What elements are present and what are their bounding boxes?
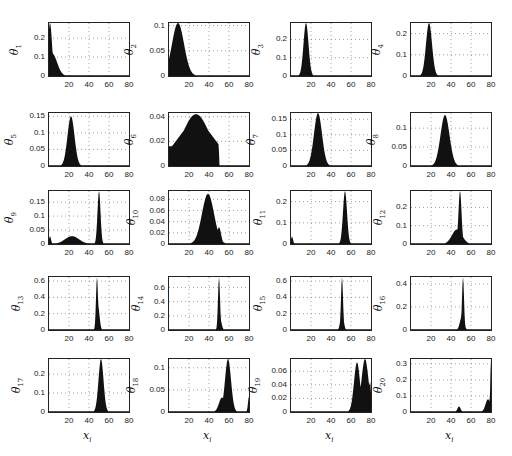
- x-tick-label: 20: [179, 249, 199, 257]
- x-tick-label: 60: [99, 417, 119, 425]
- y-tick-label: 0: [379, 162, 407, 170]
- y-axis-label: θ12: [372, 209, 387, 225]
- x-axis-label: xi: [325, 429, 333, 444]
- x-tick-label: 80: [481, 81, 501, 89]
- plot-area: [290, 276, 372, 331]
- histogram-bars: [49, 23, 129, 76]
- y-axis-label: θ15: [252, 295, 267, 311]
- x-tick-label: 20: [59, 81, 79, 89]
- x-tick-label: 80: [361, 335, 381, 343]
- histogram-bars: [291, 191, 371, 244]
- y-axis-label: θ14: [130, 295, 145, 311]
- x-tick-label: 40: [321, 171, 341, 179]
- x-tick-label: 20: [301, 81, 321, 89]
- y-tick-label: 0.15: [17, 112, 45, 120]
- y-tick-label: 0: [379, 326, 407, 334]
- x-tick-label: 40: [441, 249, 461, 257]
- y-tick-label: 0.02: [137, 137, 165, 145]
- y-tick-label: 0.06: [137, 207, 165, 215]
- plot-area: [48, 112, 130, 167]
- x-tick-label: 60: [461, 417, 481, 425]
- y-tick-label: 0.2: [379, 30, 407, 38]
- histogram-bars: [291, 359, 371, 412]
- x-tick-label: 40: [199, 171, 219, 179]
- x-tick-label: 60: [99, 171, 119, 179]
- x-tick-label: 40: [321, 335, 341, 343]
- x-tick-label: 80: [481, 171, 501, 179]
- x-tick-label: 60: [219, 335, 239, 343]
- y-axis-label: θ11: [252, 209, 267, 225]
- y-tick-label: 0.1: [379, 124, 407, 132]
- y-tick-label: 0.04: [259, 381, 287, 389]
- y-axis-label: θ6: [123, 134, 138, 145]
- x-tick-label: 60: [219, 417, 239, 425]
- x-tick-label: 60: [461, 81, 481, 89]
- plot-area: [410, 276, 492, 331]
- y-axis-label: θ16: [372, 295, 387, 311]
- histogram-bars: [49, 277, 129, 330]
- x-tick-label: 80: [239, 249, 259, 257]
- x-tick-label: 20: [421, 81, 441, 89]
- y-tick-label: 0.3: [379, 360, 407, 368]
- x-tick-label: 20: [59, 249, 79, 257]
- x-tick-label: 20: [421, 249, 441, 257]
- x-tick-label: 40: [441, 81, 461, 89]
- y-axis-label: θ4: [370, 44, 385, 55]
- y-tick-label: 0.08: [137, 195, 165, 203]
- y-tick-label: 0: [137, 240, 165, 248]
- x-tick-label: 20: [59, 335, 79, 343]
- x-tick-label: 80: [239, 335, 259, 343]
- y-axis-label: θ18: [125, 377, 140, 393]
- y-axis-label: θ8: [365, 134, 380, 145]
- y-tick-label: 0: [379, 72, 407, 80]
- x-tick-label: 40: [199, 249, 219, 257]
- y-tick-label: 0: [259, 72, 287, 80]
- y-tick-label: 0.2: [137, 312, 165, 320]
- x-tick-label: 40: [199, 81, 219, 89]
- y-tick-label: 0.05: [379, 143, 407, 151]
- x-tick-label: 40: [441, 417, 461, 425]
- x-tick-label: 40: [79, 335, 99, 343]
- x-tick-label: 80: [239, 417, 259, 425]
- x-tick-label: 80: [119, 81, 139, 89]
- x-tick-label: 60: [341, 171, 361, 179]
- y-axis-label: θ1: [8, 44, 23, 55]
- histogram-bars: [411, 23, 491, 76]
- plot-area: [48, 22, 130, 77]
- y-tick-label: 0.05: [137, 386, 165, 394]
- y-tick-label: 0.2: [259, 198, 287, 206]
- y-tick-label: 0: [137, 72, 165, 80]
- y-tick-label: 0.1: [259, 131, 287, 139]
- x-tick-label: 40: [79, 171, 99, 179]
- plot-area: [48, 276, 130, 331]
- x-tick-label: 20: [59, 417, 79, 425]
- plot-area: [48, 190, 130, 245]
- x-tick-label: 20: [59, 171, 79, 179]
- histogram-bars: [291, 113, 371, 166]
- x-tick-label: 80: [119, 171, 139, 179]
- y-tick-label: 0.05: [17, 145, 45, 153]
- y-tick-label: 0.1: [17, 212, 45, 220]
- x-tick-label: 60: [99, 81, 119, 89]
- y-tick-label: 0: [17, 162, 45, 170]
- y-tick-label: 0: [17, 240, 45, 248]
- y-tick-label: 0.06: [259, 367, 287, 375]
- y-tick-label: 0.1: [17, 129, 45, 137]
- histogram-bars: [49, 359, 129, 412]
- y-axis-label: θ9: [3, 212, 18, 223]
- y-tick-label: 0: [259, 408, 287, 416]
- x-tick-label: 20: [301, 417, 321, 425]
- plot-area: [168, 190, 250, 245]
- plot-area: [168, 112, 250, 167]
- histogram-bars: [411, 359, 491, 412]
- x-tick-label: 60: [99, 335, 119, 343]
- y-axis-label: θ13: [10, 295, 25, 311]
- y-tick-label: 0.1: [137, 364, 165, 372]
- x-tick-label: 20: [421, 335, 441, 343]
- y-tick-label: 0: [17, 326, 45, 334]
- x-axis-label: xi: [83, 429, 91, 444]
- histogram-bars: [291, 277, 371, 330]
- x-tick-label: 60: [219, 249, 239, 257]
- x-tick-label: 20: [301, 171, 321, 179]
- x-tick-label: 40: [441, 335, 461, 343]
